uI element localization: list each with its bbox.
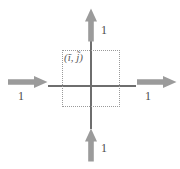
arrow-left-pointing-right (8, 75, 48, 89)
vector-field-diagram: (ĩ, j̃) 1 1 1 1 (0, 0, 180, 169)
arrow-left-value-label: 1 (18, 90, 24, 102)
arrow-right-pointing-right (137, 75, 177, 89)
arrow-bottom-value-label: 1 (101, 142, 107, 154)
arrow-top-value-label: 1 (101, 24, 107, 36)
arrow-right-value-label: 1 (145, 90, 151, 102)
arrow-bottom-pointing-up (84, 128, 98, 162)
arrow-top-pointing-up (84, 8, 98, 42)
cell-index-label: (ĩ, j̃) (64, 50, 83, 64)
